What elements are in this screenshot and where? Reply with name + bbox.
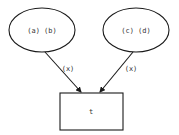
node-label: (a) (b) xyxy=(27,27,57,35)
edge-right-to-box: (x) xyxy=(100,52,137,92)
node-label: t xyxy=(89,108,93,116)
node-right-ellipse: (c) (d) xyxy=(103,8,169,52)
edge-left-to-box: (x) xyxy=(45,52,81,92)
node-label: (c) (d) xyxy=(121,27,151,35)
edge-label: (x) xyxy=(125,65,138,73)
edge-label: (x) xyxy=(62,65,75,73)
node-target-box: t xyxy=(60,93,123,130)
node-left-ellipse: (a) (b) xyxy=(9,8,75,52)
diagram-canvas: (a) (b) (c) (d) (x) (x) t xyxy=(0,0,179,135)
